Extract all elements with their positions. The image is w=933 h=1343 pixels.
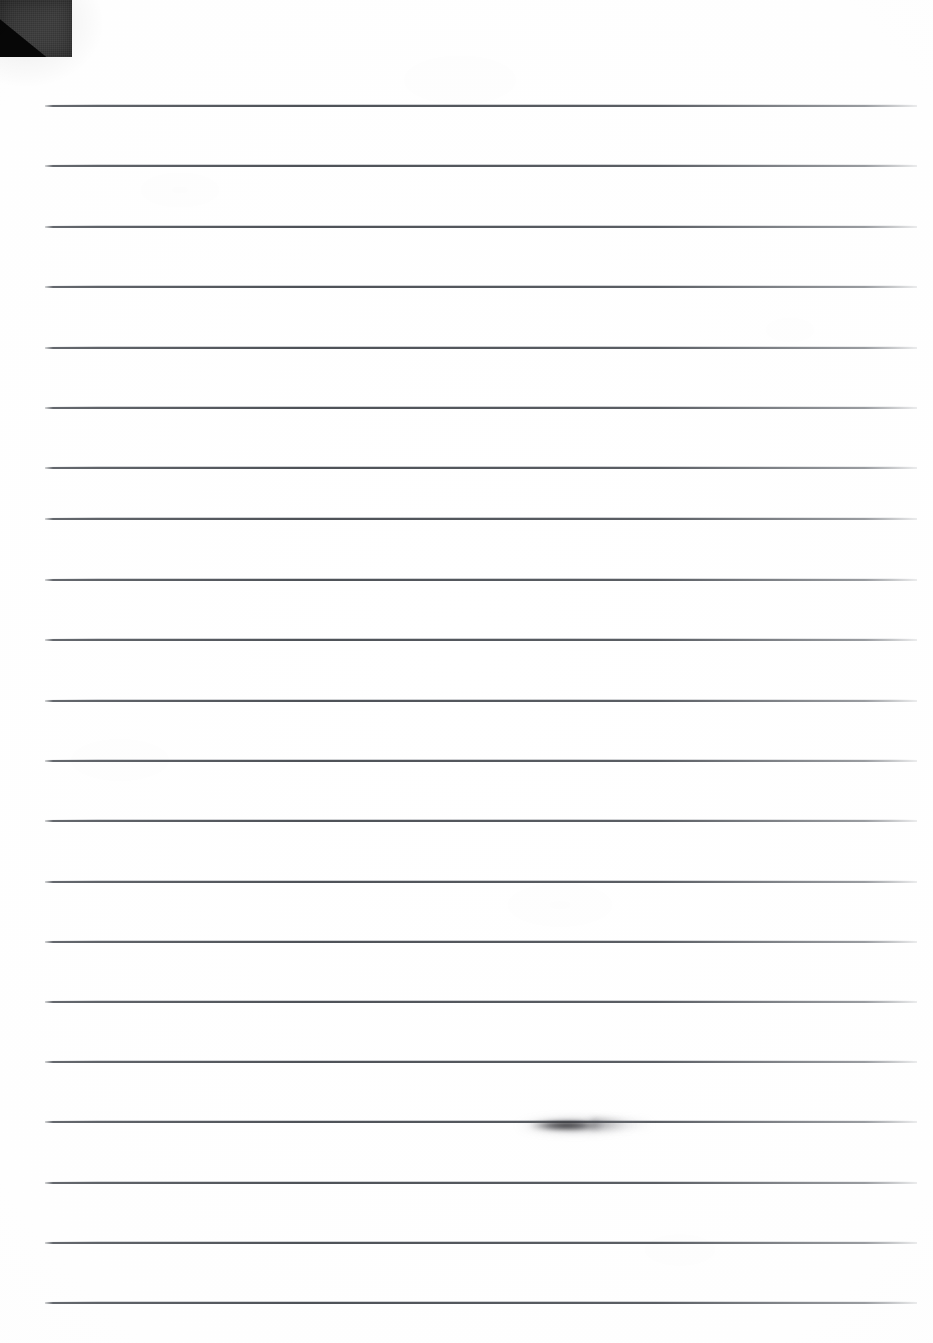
ruled-lines-layer bbox=[0, 0, 933, 1343]
ruled-line bbox=[45, 1242, 917, 1244]
ruled-line bbox=[45, 467, 917, 469]
ruled-line bbox=[45, 286, 917, 288]
scanned-page bbox=[0, 0, 933, 1343]
ruled-line bbox=[45, 1182, 917, 1184]
ruled-line bbox=[45, 226, 917, 228]
ruled-line bbox=[45, 820, 917, 822]
ruled-line bbox=[45, 700, 917, 702]
corner-shadow-artifact bbox=[0, 0, 72, 57]
ruled-line bbox=[45, 1001, 917, 1003]
ruled-line bbox=[45, 407, 917, 409]
ruled-line bbox=[45, 518, 917, 520]
ruled-line bbox=[45, 1302, 917, 1304]
ruled-line bbox=[45, 105, 917, 107]
ruled-line bbox=[45, 760, 917, 762]
ruled-line bbox=[45, 1061, 917, 1063]
ruled-line bbox=[45, 881, 917, 883]
ruled-line bbox=[45, 941, 917, 943]
ruled-line bbox=[45, 639, 917, 641]
ruled-line bbox=[45, 347, 917, 349]
ruled-line bbox=[45, 579, 917, 581]
corner-artifact-edge-fade bbox=[0, 0, 72, 57]
ruled-line bbox=[45, 165, 917, 167]
ruled-line bbox=[45, 1121, 917, 1123]
